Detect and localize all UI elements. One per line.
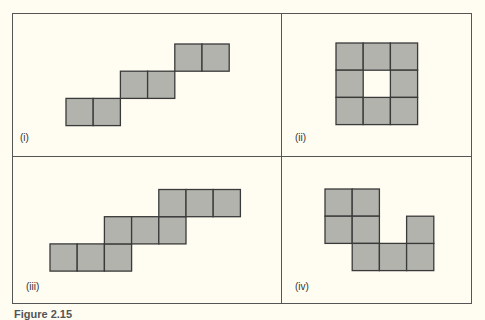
square-cell (363, 97, 390, 124)
square-cell (93, 98, 120, 125)
square-cell (325, 189, 352, 216)
square-cell (352, 189, 379, 216)
square-cell (175, 44, 202, 71)
panel-label-ii: (ii) (295, 132, 306, 143)
shape-ii (336, 43, 418, 125)
square-cell (363, 43, 390, 70)
square-cell (390, 43, 417, 70)
square-cell (50, 244, 77, 271)
figure-caption: Figure 2.15 (14, 308, 72, 320)
square-cell (407, 216, 434, 243)
square-cell (336, 43, 363, 70)
square-cell (104, 217, 131, 244)
square-cell (390, 97, 417, 124)
square-cell (336, 97, 363, 124)
square-cell (202, 44, 229, 71)
square-cell (379, 243, 406, 270)
square-cell (186, 190, 213, 217)
square-cell (325, 216, 352, 243)
square-cell (104, 244, 131, 271)
square-cell (159, 217, 186, 244)
square-cell (77, 244, 104, 271)
square-cell (352, 216, 379, 243)
square-cell (148, 71, 175, 98)
shape-iv (325, 189, 434, 271)
panel-label-iv: (iv) (295, 281, 309, 292)
square-cell (390, 70, 417, 97)
square-cell (66, 98, 93, 125)
shape-iii (50, 190, 240, 272)
square-cell (132, 217, 159, 244)
square-cell (336, 70, 363, 97)
panel-label-iii: (iii) (26, 281, 39, 292)
shapes-layer (50, 43, 434, 271)
square-cell (407, 243, 434, 270)
square-cell (159, 190, 186, 217)
panel-label-i: (i) (20, 132, 29, 143)
square-cell (120, 71, 147, 98)
square-cell (352, 243, 379, 270)
square-cell (213, 190, 240, 217)
shape-i (66, 44, 229, 126)
